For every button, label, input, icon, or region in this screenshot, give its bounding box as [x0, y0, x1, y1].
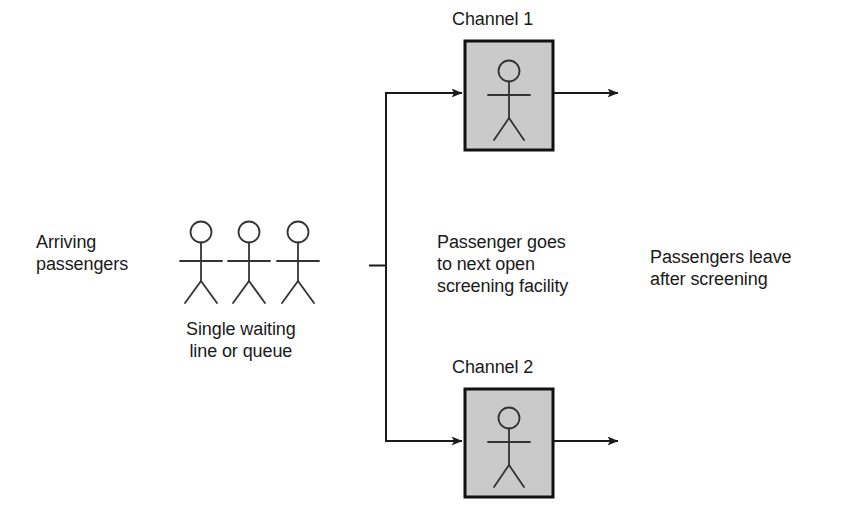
- label-routing-note: Passenger goes to next open screening fa…: [437, 231, 568, 297]
- diagram-root: Arriving passengers Single waiting line …: [0, 0, 860, 521]
- queue-passenger-3: [277, 222, 319, 304]
- queue-passenger-2: [228, 222, 270, 304]
- label-arriving-passengers: Arriving passengers: [36, 231, 128, 275]
- label-single-waiting-line: Single waiting line or queue: [186, 318, 296, 362]
- label-passengers-leave: Passengers leave after screening: [650, 246, 792, 290]
- queue-passenger-1: [180, 222, 222, 304]
- queue-split-connector: [369, 92, 387, 442]
- label-channel-2: Channel 2: [452, 356, 533, 378]
- label-channel-1: Channel 1: [452, 8, 533, 30]
